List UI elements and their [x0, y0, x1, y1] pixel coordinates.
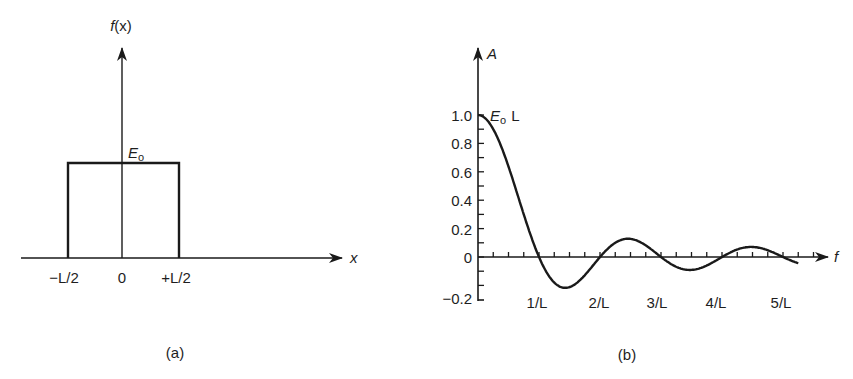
peak-label-sub: o [500, 114, 506, 126]
y-tick-0-4: 0.4 [451, 192, 472, 209]
panel-a-amplitude-subscript: o [138, 151, 144, 163]
x-tick-2-over-l: 2/L [589, 294, 610, 311]
y-tick-0: 0 [464, 249, 472, 266]
svg-text:f(x): f(x) [110, 17, 132, 34]
x-tick-1-over-l: 1/L [527, 294, 548, 311]
panel-a-tick-neg-half: −L/2 [49, 269, 79, 286]
y-tick-0-8: 0.8 [451, 135, 472, 152]
y-tick-1-0: 1.0 [451, 107, 472, 124]
x-tick-3-over-l: 3/L [647, 294, 668, 311]
panel-a-x-label: x [349, 249, 358, 266]
panel-a-tick-zero: 0 [118, 269, 126, 286]
sinc-spectrum-curve [478, 115, 798, 288]
y-tick-0-2: 0.2 [451, 221, 472, 238]
panel-a-y-label-x: (x) [114, 17, 132, 34]
y-tick-0-6: 0.6 [451, 164, 472, 181]
figure: f(x) x Eo −L/2 0 +L/2 (a) A f EoL 1.0 0.… [0, 0, 853, 379]
svg-text:EoL: EoL [490, 107, 519, 126]
panel-a-tick-pos-half: +L/2 [161, 269, 191, 286]
panel-b-y-label: A [486, 45, 497, 62]
panel-b-x-label: f [834, 248, 840, 265]
x-tick-5-over-l: 5/L [771, 294, 792, 311]
panel-b-caption: (b) [618, 346, 636, 363]
panel-b: A f EoL 1.0 0.8 0.6 0.4 0.2 0 −0.2 1/L 2… [442, 45, 840, 363]
svg-text:Eo: Eo [128, 144, 144, 163]
x-tick-4-over-l: 4/L [706, 294, 727, 311]
peak-label-l: L [511, 107, 519, 124]
panel-a: f(x) x Eo −L/2 0 +L/2 (a) [21, 17, 358, 361]
panel-a-caption: (a) [166, 344, 184, 361]
y-tick-neg-0-2: −0.2 [442, 290, 472, 307]
rect-pulse-curve [68, 163, 179, 258]
panel-b-y-ticks [478, 115, 484, 285]
